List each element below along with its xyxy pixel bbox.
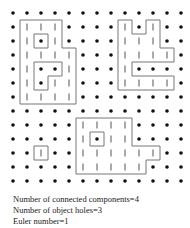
- background-dot: [95, 39, 99, 43]
- caption-components: Number of connected components=4: [13, 194, 139, 204]
- background-dot: [95, 53, 99, 57]
- background-dot: [179, 53, 183, 57]
- background-dot: [95, 81, 99, 85]
- background-dot: [25, 109, 29, 113]
- background-dot: [151, 11, 155, 15]
- background-dot: [81, 25, 85, 29]
- background-dot: [151, 137, 155, 141]
- background-dot: [109, 81, 113, 85]
- background-dot: [95, 179, 99, 183]
- background-dot: [39, 109, 43, 113]
- background-dot: [109, 11, 113, 15]
- background-dot: [39, 11, 43, 15]
- background-dot: [11, 11, 15, 15]
- background-dot: [81, 11, 85, 15]
- background-dot: [151, 179, 155, 183]
- background-dot: [67, 25, 71, 29]
- background-dot: [11, 95, 15, 99]
- background-dot: [11, 123, 15, 127]
- background-dot: [81, 109, 85, 113]
- background-dot: [11, 81, 15, 85]
- background-dot: [95, 25, 99, 29]
- background-dot: [67, 11, 71, 15]
- background-dot: [11, 179, 15, 183]
- background-dot: [151, 123, 155, 127]
- background-dot: [151, 95, 155, 99]
- background-dot: [179, 67, 183, 71]
- background-dot: [179, 151, 183, 155]
- background-dot: [137, 123, 141, 127]
- background-dot: [81, 53, 85, 57]
- background-dot: [95, 109, 99, 113]
- background-dot: [67, 165, 71, 169]
- background-dot: [95, 95, 99, 99]
- background-dot: [25, 123, 29, 127]
- background-dot: [67, 109, 71, 113]
- background-dot: [53, 123, 57, 127]
- background-dot: [165, 39, 169, 43]
- background-dot: [81, 81, 85, 85]
- background-dot: [137, 67, 141, 71]
- background-dot: [137, 95, 141, 99]
- background-dot: [137, 25, 141, 29]
- background-dot: [109, 39, 113, 43]
- background-dot: [53, 11, 57, 15]
- background-dot: [165, 25, 169, 29]
- background-dot: [179, 11, 183, 15]
- hole-dot: [39, 81, 43, 85]
- background-dot: [39, 123, 43, 127]
- hole-dot: [39, 39, 43, 43]
- hole-dot: [95, 137, 99, 141]
- background-dot: [179, 165, 183, 169]
- background-dot: [165, 137, 169, 141]
- background-dot: [179, 137, 183, 141]
- background-dot: [109, 53, 113, 57]
- background-dot: [165, 109, 169, 113]
- background-dot: [123, 11, 127, 15]
- background-dot: [179, 123, 183, 127]
- hole-dot: [53, 67, 57, 71]
- background-dot: [151, 67, 155, 71]
- background-dot: [25, 137, 29, 141]
- background-dot: [179, 179, 183, 183]
- background-dot: [39, 179, 43, 183]
- background-dot: [11, 137, 15, 141]
- background-dot: [165, 151, 169, 155]
- background-dot: [95, 11, 99, 15]
- caption-euler: Euler number=1: [13, 216, 69, 226]
- background-dot: [165, 95, 169, 99]
- background-dot: [151, 109, 155, 113]
- background-dot: [151, 165, 155, 169]
- background-dot: [109, 67, 113, 71]
- background-dot: [81, 179, 85, 183]
- background-dot: [53, 137, 57, 141]
- caption-holes: Number of object holes=3: [13, 205, 102, 215]
- background-dot: [95, 67, 99, 71]
- background-dot: [165, 67, 169, 71]
- background-dot: [67, 151, 71, 155]
- background-dot: [109, 109, 113, 113]
- background-dot: [53, 179, 57, 183]
- background-dot: [11, 109, 15, 113]
- background-dot: [67, 123, 71, 127]
- background-dot: [179, 25, 183, 29]
- background-dot: [179, 81, 183, 85]
- background-dot: [179, 39, 183, 43]
- background-dot: [165, 165, 169, 169]
- background-dot: [67, 39, 71, 43]
- binary-grid-diagram: [0, 0, 190, 195]
- background-dot: [109, 95, 113, 99]
- background-dot: [25, 151, 29, 155]
- background-dot: [137, 179, 141, 183]
- background-dot: [11, 25, 15, 29]
- background-dot: [67, 137, 71, 141]
- background-dot: [137, 109, 141, 113]
- background-dot: [11, 39, 15, 43]
- background-dot: [11, 53, 15, 57]
- background-dot: [53, 151, 57, 155]
- background-dot: [53, 109, 57, 113]
- background-dot: [39, 165, 43, 169]
- background-dot: [165, 11, 169, 15]
- background-dot: [11, 67, 15, 71]
- background-dot: [179, 109, 183, 113]
